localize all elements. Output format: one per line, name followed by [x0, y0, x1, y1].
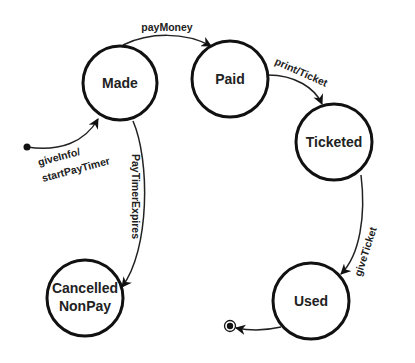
diagram-svg: Made Paid Ticketed Used Cancelled NonPay… — [0, 0, 415, 363]
transition-to-final — [236, 327, 281, 330]
state-label: Paid — [215, 71, 245, 87]
state-label: Made — [102, 75, 138, 91]
final-state-icon — [225, 321, 236, 332]
state-diagram: Made Paid Ticketed Used Cancelled NonPay… — [0, 0, 415, 363]
transition-giveinfo — [27, 119, 98, 148]
transition-paymoney — [123, 35, 211, 46]
transition-label-paytimerexpires: PayTimerExpires — [130, 154, 142, 239]
state-made: Made — [83, 46, 157, 120]
transition-label-paymoney: payMoney — [141, 21, 193, 33]
state-used: Used — [273, 263, 349, 339]
state-label: Cancelled — [52, 280, 118, 296]
state-label: Used — [294, 293, 328, 309]
state-ticketed: Ticketed — [296, 104, 372, 180]
state-paid: Paid — [192, 41, 268, 117]
state-label: Ticketed — [306, 134, 363, 150]
state-label: NonPay — [59, 298, 111, 314]
initial-state-icon — [24, 144, 31, 151]
state-cancelled-nonpay: Cancelled NonPay — [47, 260, 123, 336]
